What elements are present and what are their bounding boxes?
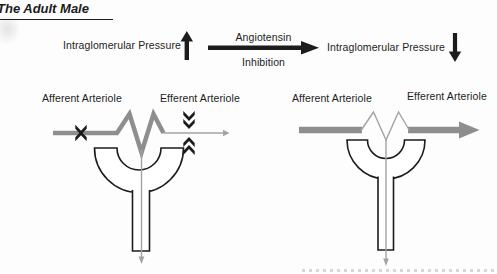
right-arrow-icon bbox=[208, 41, 319, 55]
nephron-diagram-canvas bbox=[0, 0, 497, 274]
cutoff-caption-artifact bbox=[302, 269, 495, 272]
after-urine-flow-arrowhead-icon bbox=[383, 259, 389, 267]
before-vessel-zigzag bbox=[53, 114, 164, 153]
before-bowmans-capsule bbox=[95, 148, 184, 193]
up-arrow-icon bbox=[181, 31, 193, 60]
before-urine-flow-arrowhead-icon bbox=[139, 257, 145, 265]
after-efferent-arrowhead-icon bbox=[459, 122, 480, 139]
before-diagram bbox=[53, 111, 230, 264]
after-capillary-zigzag bbox=[361, 112, 410, 140]
slide: The Adult Male Intraglomerular Pressure … bbox=[0, 0, 497, 274]
after-diagram bbox=[299, 112, 480, 266]
before-outflow-arrowhead-icon bbox=[223, 130, 230, 136]
down-arrow-icon bbox=[449, 33, 461, 62]
